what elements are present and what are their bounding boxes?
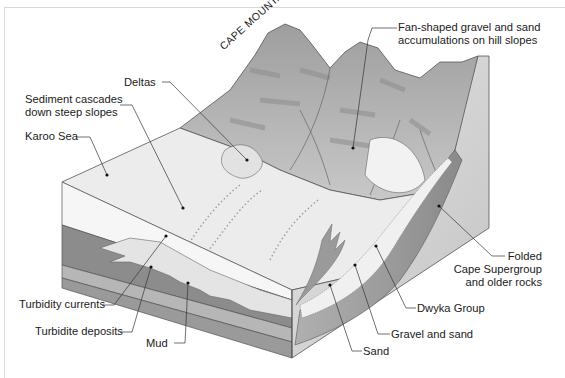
label-turbidity-currents: Turbidity currents <box>19 298 105 311</box>
label-gravel-and-sand: Gravel and sand <box>391 328 473 341</box>
label-folded-line1: Folded <box>508 250 542 263</box>
label-karoo-sea: Karoo Sea <box>25 130 78 143</box>
label-folded-line2: Cape Supergroup <box>454 263 542 276</box>
label-sediment-line2: down steep slopes <box>25 106 118 119</box>
label-sediment-line1: Sediment cascades <box>25 93 123 106</box>
label-fan-shaped-line2: accumulations on hill slopes <box>398 34 537 47</box>
label-dwyka-group: Dwyka Group <box>417 302 485 315</box>
label-fan-shaped-line1: Fan-shaped gravel and sand <box>398 21 540 34</box>
label-deltas: Deltas <box>124 76 156 89</box>
label-mud: Mud <box>146 337 168 350</box>
label-turbidite-deposits: Turbidite deposits <box>35 325 123 338</box>
label-folded-line3: and older rocks <box>466 276 543 289</box>
label-sand: Sand <box>363 345 389 358</box>
